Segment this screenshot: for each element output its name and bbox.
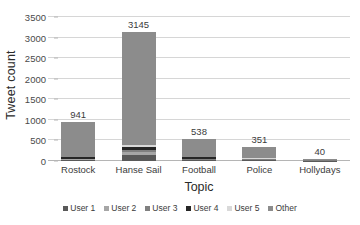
y-tick-label: 1000: [12, 114, 46, 125]
y-tick-label: 2500: [12, 53, 46, 64]
bar-stack[interactable]: [182, 139, 216, 161]
bar-group[interactable]: 538: [182, 17, 216, 161]
legend-swatch-icon: [268, 206, 273, 211]
bar-segment[interactable]: [122, 32, 156, 146]
x-tick-label: Football: [182, 164, 216, 175]
bar-stack[interactable]: [242, 147, 276, 161]
x-axis-ticks: RostockHanse SailFootballPoliceHollydays: [48, 164, 350, 178]
stacked-bar-chart: Tweet count 941314553835140 050010001500…: [0, 0, 360, 225]
plot-area: 941314553835140: [48, 17, 350, 161]
bars-layer: 941314553835140: [48, 17, 350, 161]
bar-stack[interactable]: [122, 32, 156, 161]
y-tick-mark: [54, 78, 58, 79]
y-tick-label: 1500: [12, 94, 46, 105]
legend-label: User 4: [193, 203, 218, 213]
y-tick-mark: [54, 99, 58, 100]
bar-total-label: 941: [70, 109, 86, 120]
bar-stack[interactable]: [303, 159, 337, 161]
bar-segment[interactable]: [122, 155, 156, 161]
bar-segment[interactable]: [242, 147, 276, 159]
x-tick-label: Hanse Sail: [116, 164, 162, 175]
legend-label: User 5: [234, 203, 259, 213]
legend-item[interactable]: User 4: [186, 203, 218, 213]
y-tick-label: 3000: [12, 32, 46, 43]
legend-item[interactable]: User 1: [63, 203, 95, 213]
bar-total-label: 351: [251, 134, 267, 145]
chart-legend: User 1User 2User 3User 4User 5Other: [0, 203, 360, 213]
x-tick-label: Rostock: [61, 164, 95, 175]
x-tick-label: Police: [246, 164, 272, 175]
bar-segment[interactable]: [242, 160, 276, 161]
bar-segment[interactable]: [182, 139, 216, 157]
y-tick-mark: [54, 17, 58, 18]
legend-label: User 1: [70, 203, 95, 213]
legend-swatch-icon: [145, 206, 150, 211]
legend-item[interactable]: Other: [268, 203, 296, 213]
bar-group[interactable]: 351: [242, 17, 276, 161]
y-tick-mark: [54, 58, 58, 59]
bar-group[interactable]: 3145: [122, 17, 156, 161]
y-tick-label: 0: [12, 156, 46, 167]
y-tick-mark: [54, 161, 58, 162]
legend-swatch-icon: [227, 206, 232, 211]
y-tick-label: 3500: [12, 12, 46, 23]
bar-stack[interactable]: [61, 122, 95, 161]
legend-item[interactable]: User 5: [227, 203, 259, 213]
legend-label: User 2: [111, 203, 136, 213]
bar-group[interactable]: 40: [303, 17, 337, 161]
y-tick-label: 2000: [12, 73, 46, 84]
bar-total-label: 3145: [128, 19, 149, 30]
legend-label: Other: [275, 203, 296, 213]
legend-item[interactable]: User 2: [104, 203, 136, 213]
legend-swatch-icon: [63, 206, 68, 211]
legend-swatch-icon: [186, 206, 191, 211]
y-tick-mark: [54, 119, 58, 120]
bar-segment[interactable]: [61, 122, 95, 156]
legend-label: User 3: [152, 203, 177, 213]
bar-segment[interactable]: [61, 160, 95, 161]
legend-item[interactable]: User 3: [145, 203, 177, 213]
y-tick-label: 500: [12, 135, 46, 146]
x-tick-label: Hollydays: [299, 164, 340, 175]
y-tick-mark: [54, 140, 58, 141]
bar-segment[interactable]: [182, 160, 216, 161]
legend-swatch-icon: [104, 206, 109, 211]
x-axis-title: Topic: [48, 180, 350, 194]
bar-group[interactable]: 941: [61, 17, 95, 161]
bar-total-label: 538: [191, 126, 207, 137]
bar-total-label: 40: [315, 146, 326, 157]
y-tick-mark: [54, 37, 58, 38]
